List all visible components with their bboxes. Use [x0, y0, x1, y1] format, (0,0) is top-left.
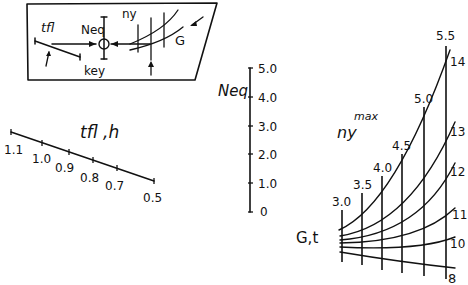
ny-value-label: 3.5 — [353, 178, 372, 192]
key-g-label: G — [175, 33, 185, 48]
key-neq-label: Neq — [81, 23, 105, 37]
neq-scale-title: Neq — [218, 82, 248, 100]
arrow-head-icon — [148, 61, 154, 67]
tfl-scale: tfl ,h 1.1 1.0 0.9 0.8 0.7 0.5 — [4, 122, 162, 205]
arrow-head-icon — [111, 41, 118, 47]
neq-tick-label: 1.0 — [258, 177, 277, 191]
tfl-tick-label: 1.0 — [32, 152, 51, 166]
g-value-label: 12 — [450, 165, 465, 179]
neq-tick-label: 4.0 — [258, 91, 277, 105]
neq-tick-label: 0 — [260, 205, 268, 219]
key-label: key — [84, 64, 105, 78]
neq-tick-label: 5.0 — [258, 62, 277, 76]
key-tfl-label: tfl — [41, 20, 55, 35]
ny-grid: ny max G,t 3.0 3.5 4.0 4.5 5.0 5.5 14 13 — [296, 29, 467, 285]
tfl-tick-label: 0.5 — [143, 191, 162, 205]
ny-value-label: 4.5 — [392, 139, 411, 153]
tfl-tick-label: 0.7 — [105, 179, 124, 193]
neq-tick-label: 2.0 — [258, 148, 277, 162]
nomogram: tfl Neq ny G key tfl ,h — [0, 0, 468, 285]
tfl-tick-label: 0.8 — [80, 171, 99, 185]
ny-value-label: 5.0 — [414, 92, 433, 106]
g-value-label: 11 — [452, 208, 467, 222]
g-t-label: G,t — [296, 229, 318, 247]
key-ny-label: ny — [122, 7, 137, 21]
ny-value-label: 5.5 — [436, 29, 455, 43]
arrow-head-icon — [190, 21, 197, 26]
g-value-label: 8 — [448, 271, 456, 285]
tfl-tick-label: 1.1 — [4, 143, 23, 157]
g-value-label: 10 — [450, 237, 465, 251]
key-box: tfl Neq ny G key — [27, 3, 217, 80]
neq-tick-label: 3.0 — [258, 120, 277, 134]
ny-value-label: 4.0 — [373, 161, 392, 175]
ny-title-sup: max — [354, 110, 378, 123]
neq-scale: Neq 5.0 4.0 3.0 2.0 1.0 0 — [218, 62, 277, 219]
tfl-tick-label: 0.9 — [55, 161, 74, 175]
arrow-head-icon — [89, 41, 96, 47]
ny-value-label: 3.0 — [332, 195, 351, 209]
g-value-label: 14 — [450, 55, 465, 69]
key-ny-curve — [130, 10, 178, 44]
g-value-label: 13 — [450, 125, 465, 139]
ny-title: ny — [337, 123, 357, 142]
tfl-scale-title: tfl ,h — [80, 122, 119, 142]
